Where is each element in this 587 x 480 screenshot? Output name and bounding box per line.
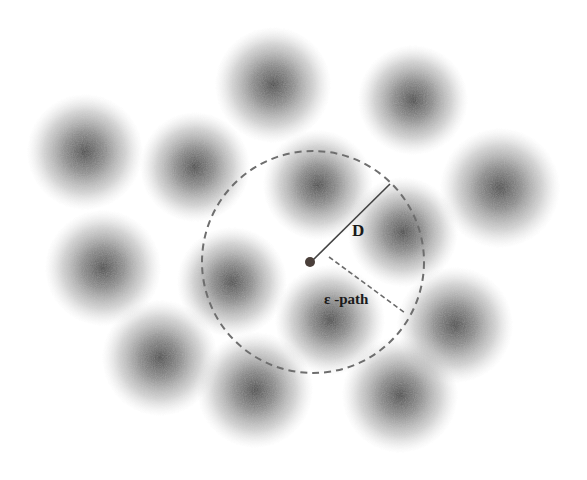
center-point-dot xyxy=(305,257,315,267)
epsilon-path-label: ε -path xyxy=(324,291,368,308)
particle-blob xyxy=(140,112,250,222)
distance-label: D xyxy=(352,221,364,241)
particle-blob xyxy=(358,45,468,155)
particle-blob xyxy=(27,94,143,210)
diagram-canvas xyxy=(0,0,587,480)
particle-blob xyxy=(215,27,331,143)
particle-blob xyxy=(342,337,458,453)
particle-blob xyxy=(440,128,560,248)
